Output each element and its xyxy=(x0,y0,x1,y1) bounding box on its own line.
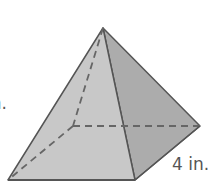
dimension-label-base: 4 in. xyxy=(172,156,209,173)
dimension-label-left: in. xyxy=(0,95,7,112)
pyramid-diagram: in. 4 in. xyxy=(0,0,218,182)
